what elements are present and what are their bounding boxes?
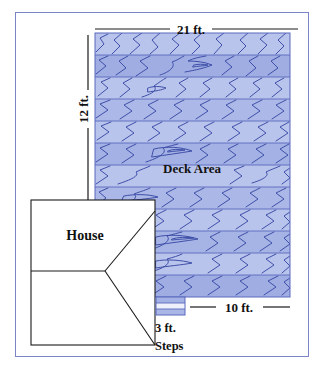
label-deck-depth: 12 ft. [76, 95, 91, 123]
house-outline [31, 200, 155, 345]
label-steps-width: 10 ft. [225, 300, 253, 315]
label-house: House [66, 228, 103, 243]
steps-shape [156, 297, 185, 315]
label-deck-area: Deck Area [163, 161, 221, 176]
label-steps: Steps [155, 339, 184, 353]
diagram-canvas: 21 ft. 12 ft. Deck Area House 10 ft. 3 f… [0, 0, 331, 375]
deck-plan-drawing: 21 ft. 12 ft. Deck Area House 10 ft. 3 f… [0, 0, 331, 375]
label-steps-depth: 3 ft. [155, 321, 176, 335]
label-deck-width: 21 ft. [177, 22, 205, 37]
